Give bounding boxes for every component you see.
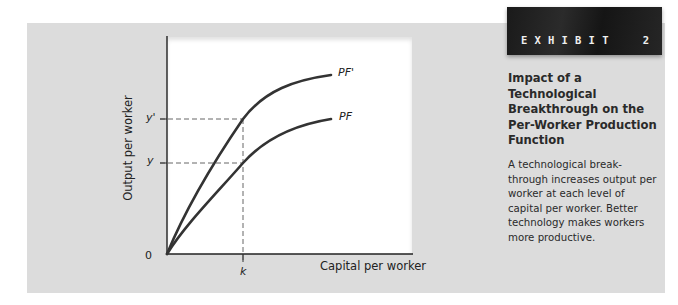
curves: [167, 75, 331, 254]
y-axis-label: Output per worker: [121, 95, 135, 201]
exhibit-header: EXHIBIT 2: [507, 7, 662, 55]
pf-prime-label: PF': [338, 66, 354, 79]
pf-prime-curve: [167, 75, 331, 254]
axes: [167, 36, 413, 254]
pf-curve: [167, 119, 331, 254]
y-prime-tick-label: y': [146, 111, 156, 124]
x-axis-label: Capital per worker: [320, 259, 426, 273]
origin-label: 0: [145, 249, 152, 262]
pf-label: PF: [339, 110, 352, 123]
exhibit-number: EXHIBIT 2: [521, 34, 656, 46]
y-tick-label: y: [147, 154, 154, 167]
k-tick-label: k: [240, 265, 246, 278]
caption-title: Impact of a Technological Breakthrough o…: [508, 71, 658, 149]
caption-body: A technological break-through increases …: [508, 158, 658, 246]
